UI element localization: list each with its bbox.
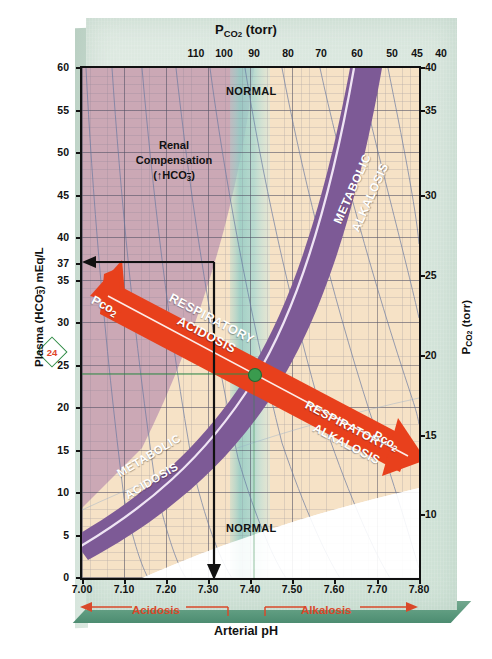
alkalosis-label: Alkalosis xyxy=(301,604,352,616)
x-tick-780: 7.80 xyxy=(402,584,436,595)
x-tick-760: 7.60 xyxy=(317,584,351,595)
y-tick-10: 10 xyxy=(43,487,69,498)
y-tick-60: 60 xyxy=(43,62,69,73)
renal-compensation-note: Renal Compensation (↑HCO3) xyxy=(104,138,244,185)
right-axis-title: PCO2 (torr) xyxy=(460,252,474,402)
y-tick-15: 15 xyxy=(43,445,69,456)
pco2-tick-20: 20 xyxy=(425,350,451,361)
pco2-tick-15: 15 xyxy=(425,430,451,441)
pco2-tick-40: 40 xyxy=(425,62,451,73)
y-tick-55: 55 xyxy=(43,105,69,116)
renal-line-1: Renal xyxy=(159,139,189,151)
x-tick-740: 7.40 xyxy=(233,584,267,595)
top-tick-40: 40 xyxy=(426,48,456,59)
pco2-tick-25: 25 xyxy=(425,270,451,281)
x-tick-730: 7.30 xyxy=(191,584,225,595)
bottom-axis-title: Arterial pH xyxy=(0,624,492,638)
pco2-tick-10: 10 xyxy=(425,509,451,520)
top-tick-60: 60 xyxy=(342,48,372,59)
pco2-tick-30: 30 xyxy=(425,190,451,201)
pco2-tick-35: 35 xyxy=(425,105,451,116)
left-axis-title: Plasma (HCO3) mEq/L xyxy=(33,207,47,407)
y-tick-0: 0 xyxy=(43,572,69,583)
x-tick-700: 7.00 xyxy=(65,584,99,595)
y-tick-50: 50 xyxy=(43,147,69,158)
acidosis-label: Acidosis xyxy=(132,604,180,616)
renal-line-3: (↑HCO3) xyxy=(153,169,195,181)
top-tick-70: 70 xyxy=(306,48,336,59)
x-tick-750: 7.50 xyxy=(275,584,309,595)
x-tick-720: 7.20 xyxy=(149,584,183,595)
top-tick-100: 100 xyxy=(209,48,239,59)
top-tick-110: 110 xyxy=(181,48,211,59)
x-tick-770: 7.70 xyxy=(360,584,394,595)
x-tick-710: 7.10 xyxy=(107,584,141,595)
normal-label-top: NORMAL xyxy=(226,85,277,97)
top-axis-title: PCO2 (torr) xyxy=(0,22,492,39)
top-tick-80: 80 xyxy=(273,48,303,59)
y-tick-5: 5 xyxy=(43,530,69,541)
y-tick-45: 45 xyxy=(43,190,69,201)
renal-line-2: Compensation xyxy=(136,154,212,166)
direction-arrows xyxy=(70,596,430,618)
top-tick-90: 90 xyxy=(239,48,269,59)
normal-label-bottom: NORMAL xyxy=(226,522,277,534)
